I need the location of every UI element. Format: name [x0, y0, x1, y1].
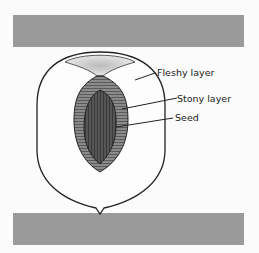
- label-fleshy-layer: Fleshy layer: [157, 67, 214, 78]
- label-seed: Seed: [175, 112, 199, 123]
- label-stony-layer: Stony layer: [177, 93, 231, 104]
- drupe-diagram: [0, 0, 259, 253]
